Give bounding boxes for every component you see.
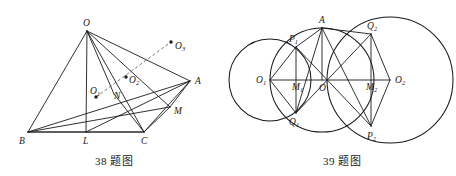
point-label-sub-Q2: 2 — [374, 25, 378, 32]
edges-layer — [28, 31, 190, 132]
point-label-sub-Q1: 1 — [296, 121, 299, 128]
point-label-N: N — [113, 91, 121, 101]
point-label-M1: M1 — [291, 82, 303, 93]
segment-A-Q2 — [322, 28, 371, 34]
point-label-P2: P2 — [366, 131, 377, 142]
segment-Q1-Q2 — [296, 34, 371, 113]
point-label-O2: O2 — [129, 75, 140, 86]
segment-O-L — [86, 31, 87, 132]
figure-38-drawing: OBLCAMNO1O2O3 — [0, 0, 228, 146]
point-label-sub-M1: 1 — [300, 86, 303, 93]
figure-39-caption: 39 题图 — [228, 152, 456, 168]
segment-B-A — [28, 81, 190, 132]
dashed-segment-O1-O3 — [96, 42, 171, 97]
point-label-M: M — [173, 106, 183, 116]
figure-39-drawing: O1OO2M1M2AP1Q1Q2P2 — [228, 0, 456, 146]
point-label-O1: O1 — [256, 75, 266, 86]
point-label-Q2: Q2 — [367, 21, 378, 32]
point-dot-O2 — [124, 75, 127, 78]
point-label-O: O — [319, 83, 326, 93]
segment-A-P1 — [296, 28, 322, 47]
point-label-sub-O2: 2 — [136, 79, 140, 86]
point-label-sub-O3: 3 — [181, 45, 186, 52]
point-label-A: A — [318, 15, 325, 25]
segment-B-M — [28, 107, 170, 132]
figure-39-panel: O1OO2M1M2AP1Q1Q2P2 39 题图 — [228, 0, 456, 176]
point-labels-layer: O1OO2M1M2AP1Q1Q2P2 — [256, 15, 406, 142]
point-dot-O3 — [169, 40, 172, 43]
point-label-O3: O3 — [175, 41, 186, 52]
segment-O1-P1 — [270, 47, 296, 80]
figure-38-caption: 38 题图 — [0, 152, 228, 168]
segment-A-P2 — [322, 28, 371, 126]
point-label-sub-O1: 1 — [97, 90, 100, 97]
point-label-O1: O1 — [90, 86, 100, 97]
segment-O-B — [28, 31, 87, 132]
point-label-O2: O2 — [395, 75, 406, 86]
point-label-M2: M2 — [365, 82, 378, 93]
figure-38-panel: OBLCAMNO1O2O3 38 题图 — [0, 0, 228, 176]
point-label-O: O — [83, 18, 90, 28]
point-label-P1: P1 — [288, 34, 298, 45]
point-labels-layer: OBLCAMNO1O2O3 — [19, 18, 201, 146]
point-label-sub-M2: 2 — [374, 86, 378, 93]
point-label-A: A — [194, 76, 201, 86]
segment-O-A — [87, 31, 190, 81]
point-label-B: B — [19, 136, 25, 146]
segment-P1-P2 — [296, 47, 371, 126]
point-label-sub-P1: 1 — [295, 38, 298, 45]
segment-A-M — [170, 81, 190, 107]
segment-O-N — [87, 31, 114, 94]
figure-page: OBLCAMNO1O2O3 38 题图 O1OO2M1M2AP1Q1Q2P2 3… — [0, 0, 456, 176]
point-label-L: L — [82, 136, 88, 146]
point-label-Q1: Q1 — [289, 117, 299, 128]
point-label-sub-O2: 2 — [402, 79, 406, 86]
point-label-sub-O1: 1 — [263, 79, 266, 86]
point-label-C: C — [141, 136, 148, 146]
